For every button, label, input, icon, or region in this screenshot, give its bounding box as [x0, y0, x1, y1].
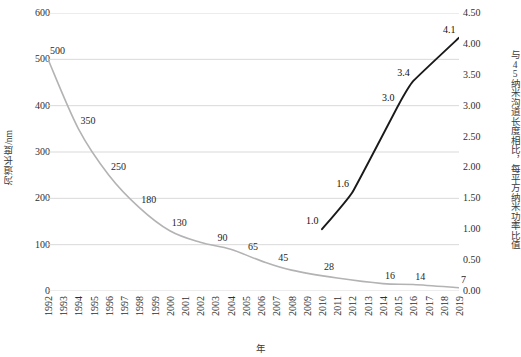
series-line-power-ratio — [322, 38, 459, 230]
data-label: 3.4 — [397, 68, 410, 78]
x-axis-tick-label: 1994 — [73, 296, 84, 316]
chart-container: 沟道长度/nm 与45纳米沟道长度相比，每平方纳米功率比值 年 01002003… — [0, 0, 521, 357]
y-axis-left-tick-label: 500 — [10, 54, 50, 64]
x-axis-tick-label: 2007 — [271, 296, 282, 316]
x-axis-tick-label: 2010 — [317, 296, 328, 316]
x-axis-tick-label: 2018 — [439, 296, 450, 316]
x-axis-tick-label: 2005 — [241, 296, 252, 316]
y-axis-left-tick-label: 100 — [10, 240, 50, 250]
data-label: 350 — [80, 116, 95, 126]
x-axis-tick-label: 2006 — [256, 296, 267, 316]
y-axis-right-tick-label: 4.00 — [463, 39, 507, 49]
y-axis-right-tick-label: 1.00 — [463, 224, 507, 234]
y-axis-left-tick-label: 600 — [10, 8, 50, 18]
x-axis-tick-label: 2011 — [332, 296, 343, 316]
y-axis-left-tick-label: 0 — [10, 286, 50, 296]
y-axis-right-tick-label: 4.50 — [463, 8, 507, 18]
x-axis-tick-label: 2000 — [165, 296, 176, 316]
y-axis-right-tick-label: 2.00 — [463, 162, 507, 172]
data-label: 4.1 — [443, 25, 456, 35]
x-axis-tick-label: 2002 — [195, 296, 206, 316]
y-axis-right-tick-label: 0.00 — [463, 286, 507, 296]
data-label: 1.6 — [336, 179, 349, 189]
x-axis-tick-label: 2016 — [408, 296, 419, 316]
data-label: 250 — [111, 162, 126, 172]
x-axis-tick-label: 1993 — [58, 296, 69, 316]
data-label: 500 — [50, 46, 65, 56]
x-axis-tick-label: 2015 — [393, 296, 404, 316]
y-axis-left-tick-label: 200 — [10, 193, 50, 203]
y-axis-right-tick-label: 3.00 — [463, 101, 507, 111]
data-label: 3.0 — [382, 93, 395, 103]
x-axis-tick-label: 1998 — [134, 296, 145, 316]
y-axis-right-tick-label: 3.50 — [463, 70, 507, 80]
y-axis-right-title: 与45纳米沟道长度相比，每平方纳米功率比值 — [510, 50, 520, 250]
x-axis-tick-label: 2009 — [302, 296, 313, 316]
series-line-channel-length — [48, 59, 459, 287]
x-axis-tick-label: 2019 — [454, 296, 465, 316]
y-axis-right-tick-label: 1.50 — [463, 193, 507, 203]
data-label: 7 — [461, 275, 466, 285]
x-axis-tick-label: 2004 — [226, 296, 237, 316]
y-axis-right-tick-label: 0.50 — [463, 255, 507, 265]
data-label: 130 — [172, 218, 187, 228]
data-label: 28 — [324, 262, 334, 272]
x-axis-tick-label: 2014 — [378, 296, 389, 316]
x-axis-tick-label: 1992 — [43, 296, 54, 316]
data-label: 180 — [141, 195, 156, 205]
y-axis-left-title: 沟道长度/nm — [2, 130, 16, 185]
data-label: 14 — [415, 272, 425, 282]
x-axis-tick-label: 2012 — [347, 296, 358, 316]
x-axis-tick-label: 2001 — [180, 296, 191, 316]
x-axis-tick-label: 2008 — [287, 296, 298, 316]
data-label: 65 — [248, 242, 258, 252]
x-axis-tick-label: 1997 — [119, 296, 130, 316]
x-axis-tick-label: 1995 — [89, 296, 100, 316]
x-axis-tick-label: 1996 — [104, 296, 115, 316]
x-axis-tick-label: 2013 — [363, 296, 374, 316]
x-axis-tick-label: 2003 — [210, 296, 221, 316]
x-axis-title: 年 — [0, 341, 521, 355]
data-label: 45 — [278, 253, 288, 263]
data-label: 90 — [217, 233, 227, 243]
y-axis-left-tick-label: 400 — [10, 101, 50, 111]
data-label: 16 — [385, 271, 395, 281]
y-axis-left-tick-label: 300 — [10, 147, 50, 157]
y-axis-right-tick-label: 2.50 — [463, 132, 507, 142]
x-axis-tick-label: 1999 — [150, 296, 161, 316]
data-label: 1.0 — [306, 216, 319, 226]
x-axis-tick-label: 2017 — [424, 296, 435, 316]
